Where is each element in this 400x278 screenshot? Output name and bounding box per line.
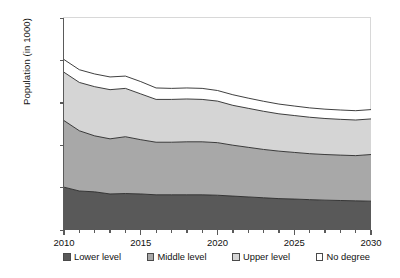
- x-tick-mark: [125, 230, 126, 233]
- y-tick-mark: [60, 102, 64, 103]
- legend-item-middle-level[interactable]: Middle level: [147, 252, 207, 262]
- x-tick-mark: [263, 230, 264, 233]
- x-tick-mark: [294, 230, 295, 235]
- y-tick-mark: [60, 60, 64, 61]
- legend-swatch-icon: [232, 253, 240, 261]
- legend-swatch-icon: [316, 253, 324, 261]
- x-tick-mark: [109, 230, 110, 233]
- y-tick-mark: [60, 145, 64, 146]
- y-tick-mark: [60, 18, 64, 19]
- x-tick-mark: [79, 230, 80, 233]
- y-tick-mark: [60, 187, 64, 188]
- legend-item-lower-level[interactable]: Lower level: [63, 252, 121, 262]
- x-tick-label: 2015: [119, 237, 163, 248]
- x-tick-label: 2010: [42, 237, 86, 248]
- plot-area: 05001000150020002500 2010201520202025203…: [63, 18, 370, 230]
- x-tick-mark: [232, 230, 233, 233]
- x-tick-mark: [370, 230, 371, 235]
- x-tick-mark: [278, 230, 279, 233]
- x-tick-mark: [217, 230, 218, 235]
- legend-item-upper-level[interactable]: Upper level: [232, 252, 290, 262]
- legend-swatch-icon: [63, 253, 71, 261]
- x-tick-mark: [324, 230, 325, 233]
- chart-legend: Lower levelMiddle levelUpper levelNo deg…: [63, 252, 370, 262]
- x-tick-mark: [186, 230, 187, 233]
- legend-label: No degree: [327, 252, 370, 262]
- x-tick-mark: [355, 230, 356, 233]
- y-axis-title: Population (in 1000): [21, 0, 32, 142]
- x-tick-mark: [63, 230, 64, 235]
- x-tick-mark: [94, 230, 95, 233]
- x-tick-mark: [156, 230, 157, 233]
- legend-swatch-icon: [147, 253, 155, 261]
- x-tick-mark: [340, 230, 341, 233]
- x-tick-mark: [202, 230, 203, 233]
- legend-label: Lower level: [74, 252, 121, 262]
- x-tick-mark: [171, 230, 172, 233]
- stacked-area-chart: Population (in 1000) 0500100015002000250…: [0, 0, 400, 278]
- area-series-group: [64, 18, 371, 230]
- x-tick-mark: [140, 230, 141, 235]
- legend-item-no-degree[interactable]: No degree: [316, 252, 370, 262]
- x-tick-mark: [309, 230, 310, 233]
- legend-label: Upper level: [243, 252, 290, 262]
- x-tick-mark: [248, 230, 249, 233]
- x-tick-label: 2020: [196, 237, 240, 248]
- legend-label: Middle level: [158, 252, 207, 262]
- x-tick-label: 2025: [272, 237, 316, 248]
- x-tick-label: 2030: [349, 237, 393, 248]
